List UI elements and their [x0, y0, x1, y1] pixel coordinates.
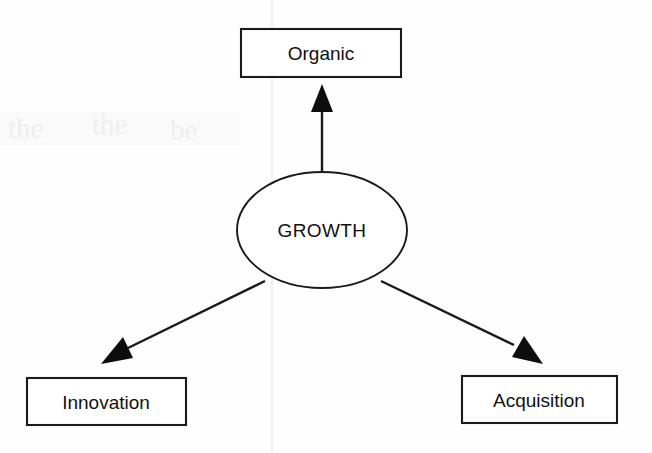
node-innovation[interactable]: Innovation [27, 378, 186, 425]
node-organic[interactable]: Organic [241, 29, 401, 77]
growth-diagram: the the be Organic [0, 0, 652, 453]
organic-label: Organic [288, 43, 355, 64]
arrowhead-acquisition [512, 336, 543, 364]
node-acquisition[interactable]: Acquisition [462, 376, 617, 423]
acquisition-label: Acquisition [493, 390, 585, 411]
edge-line-acquisition [381, 281, 514, 345]
node-growth-hub[interactable]: GROWTH [237, 172, 407, 288]
edge-line-innovation [128, 281, 265, 348]
page-bleed-through: the the be [0, 108, 240, 146]
ghost-mark-2: the [92, 108, 127, 140]
edge-growth-to-innovation [101, 281, 265, 364]
arrowhead-organic [311, 84, 333, 112]
arrowhead-innovation [101, 337, 133, 364]
ghost-mark-3: be [170, 114, 197, 146]
ghost-mark-1: the [8, 112, 43, 144]
diagram-canvas: the the be Organic [0, 0, 652, 453]
growth-label: GROWTH [278, 220, 367, 241]
innovation-label: Innovation [62, 392, 150, 413]
edge-growth-to-organic [311, 84, 333, 172]
edge-growth-to-acquisition [381, 281, 543, 364]
